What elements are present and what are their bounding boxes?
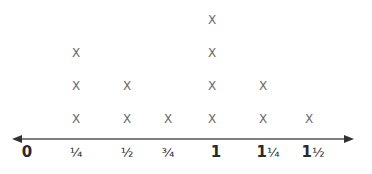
line-plot: 0 ¼ ½ ¾ 1 1¼ 1½ XXXXXXXXXXXXX <box>0 0 372 174</box>
x-mark: X <box>70 79 82 93</box>
x-mark: X <box>162 112 174 126</box>
tick-label-1-one-quarter: 1¼ <box>256 143 279 162</box>
x-mark: X <box>121 79 133 93</box>
tick-label-1: 1 <box>211 143 221 162</box>
tick-label-three-quarters: ¾ <box>162 143 175 162</box>
x-mark: X <box>303 112 315 126</box>
x-mark: X <box>206 112 218 126</box>
x-mark: X <box>257 79 269 93</box>
tick-label-one-quarter: ¼ <box>70 143 83 162</box>
x-mark: X <box>70 112 82 126</box>
x-mark: X <box>257 112 269 126</box>
x-mark: X <box>206 79 218 93</box>
right-arrow-icon <box>344 135 354 143</box>
left-arrow-icon <box>12 135 22 143</box>
x-mark: X <box>121 112 133 126</box>
tick-label-1-one-half: 1½ <box>301 143 324 162</box>
tick-label-one-half: ½ <box>121 143 134 162</box>
x-mark: X <box>70 46 82 60</box>
tick-label-0: 0 <box>22 143 32 162</box>
x-mark: X <box>206 13 218 27</box>
x-mark: X <box>206 46 218 60</box>
